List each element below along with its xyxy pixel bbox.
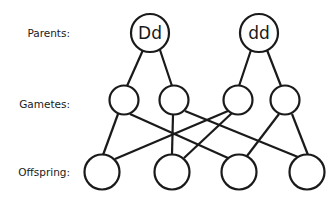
gamete-node-2 [160,86,189,115]
parent-genotype: Dd [138,23,162,43]
parent-node-dd-het: Dd [131,14,169,52]
parent-gamete-edges [127,50,281,86]
edge-g4-o3 [247,114,279,156]
offspring-node-2 [155,155,190,190]
edge-p2-g3 [239,50,251,86]
edge-g4-o4 [292,114,308,155]
parent-node-dd-hom: dd [240,14,278,52]
edge-p1-g2 [160,50,172,86]
gamete-offspring-edges [103,111,308,159]
edge-p1-g1 [127,50,143,86]
offspring-node-4 [290,155,325,190]
gametes-row-label: Gametes: [19,98,70,110]
edge-g1-o3 [130,114,228,158]
punnett-tree-diagram: Parents: Gametes: Offspring: Dd dd [0,0,336,203]
edge-p2-g4 [267,50,281,86]
parents-row-label: Parents: [27,27,70,39]
gamete-node-3 [224,86,253,115]
offspring-row-label: Offspring: [18,166,70,178]
gamete-node-1 [110,86,139,115]
edge-g2-o4 [185,111,298,157]
edge-g1-o1 [103,114,118,155]
offspring-node-1 [85,155,120,190]
parent-genotype: dd [248,23,270,43]
gamete-node-4 [271,86,300,115]
offspring-node-3 [222,155,257,190]
